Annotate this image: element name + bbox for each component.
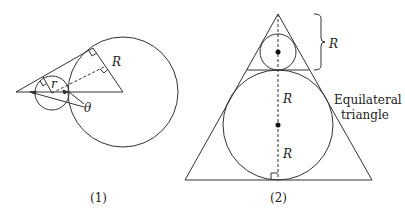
figure-1 bbox=[16, 37, 178, 147]
label-R: R bbox=[111, 55, 121, 69]
theta-leader bbox=[69, 92, 84, 104]
brace bbox=[314, 14, 325, 70]
annotation-line-1: Equilateral bbox=[334, 93, 402, 107]
arrow-head bbox=[63, 90, 68, 94]
big-center-dot bbox=[276, 123, 281, 128]
caption-2: (2) bbox=[270, 191, 287, 205]
annotation-line-2: triangle bbox=[341, 108, 389, 122]
label-theta: θ bbox=[84, 101, 92, 115]
label-brace-R: R bbox=[328, 37, 338, 51]
arrow-head bbox=[30, 91, 36, 94]
right-angle-mark bbox=[271, 173, 278, 180]
label-r: r bbox=[51, 77, 58, 91]
right-angle-mark bbox=[100, 69, 108, 73]
theta-leader bbox=[30, 92, 84, 107]
label-upper-R: R bbox=[282, 92, 292, 106]
dashed-connector bbox=[52, 66, 106, 93]
caption-1: (1) bbox=[90, 191, 107, 205]
label-lower-R: R bbox=[282, 147, 292, 161]
small-center-dot bbox=[276, 50, 281, 55]
diagram-canvas: R r θ (1) R R R Equilateral triangle (2) bbox=[0, 0, 405, 217]
